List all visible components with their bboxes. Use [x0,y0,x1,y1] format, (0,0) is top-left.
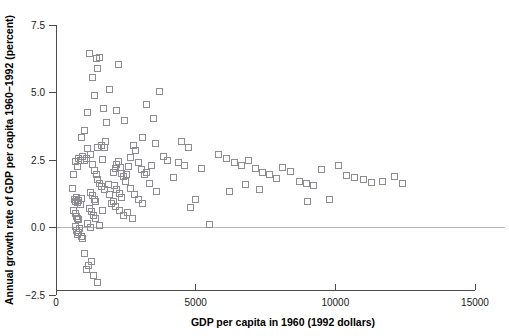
data-point [246,157,252,163]
data-point [128,154,134,160]
y-tick-label: 5.0 [31,87,45,98]
data-point [360,176,366,182]
data-point [94,280,100,286]
x-tick-label: 15000 [461,297,489,308]
data-point [78,134,84,140]
data-point [344,173,350,179]
data-point [82,127,88,133]
data-point [135,160,141,166]
data-point [126,164,132,170]
data-point [288,168,294,174]
data-point [100,208,106,214]
data-point [352,175,358,181]
data-point [193,196,199,202]
data-point [83,266,89,272]
data-point [95,65,101,71]
data-point [71,172,77,178]
data-point [122,178,128,184]
data-point [187,204,193,210]
data-point [113,107,119,113]
axis-ticks [49,25,335,295]
y-tick-label: −2.5 [25,290,45,301]
y-tick-label: 0.0 [31,222,45,233]
y-axis-label: Annual growth rate of GDP per capita 196… [3,15,15,305]
data-point [114,187,120,193]
data-point [90,75,96,81]
data-point [104,119,110,125]
x-tick-label: 0 [53,297,59,308]
data-point [156,88,162,94]
data-point [239,163,245,169]
data-point [335,162,341,168]
data-point [327,196,333,202]
data-point [121,118,127,124]
data-point [86,205,92,211]
data-point [93,216,99,222]
data-point [170,175,176,181]
data-point [140,134,146,140]
data-point-markers [70,50,406,286]
data-point [88,152,94,158]
x-axis-label: GDP per capita in 1960 (1992 dollars) [191,316,375,328]
data-point [92,92,98,98]
data-point [130,216,136,222]
data-point [147,181,153,187]
data-point [116,61,122,67]
y-tick-label: 7.5 [31,20,45,31]
data-point [304,199,310,205]
axes-frame [56,25,475,295]
data-point [257,186,263,192]
data-point [186,145,192,151]
x-tick-labels: 050001000015000 [53,297,489,308]
data-point [380,178,386,184]
x-tick-label: 10000 [321,297,349,308]
plot-canvas: 050001000015000 −2.50.02.55.07.5 GDP per… [0,0,509,336]
data-point [399,181,405,187]
data-point [310,183,316,189]
data-point [85,263,91,269]
data-point [93,172,99,178]
data-point [215,152,221,158]
data-point [232,159,238,165]
data-point [318,166,324,172]
x-tick-label: 5000 [185,297,208,308]
data-point [110,169,116,175]
data-point [127,185,133,191]
data-point [140,201,146,207]
y-tick-labels: −2.50.02.55.07.5 [25,20,45,301]
data-point [101,106,107,112]
data-point [369,179,375,185]
data-point [179,139,185,145]
data-point [131,192,137,198]
data-point [226,188,232,194]
data-point [154,188,160,194]
data-point [198,166,204,172]
data-point [267,172,273,178]
data-point [253,165,259,171]
data-point [103,138,109,144]
y-tick-label: 2.5 [31,155,45,166]
data-point [84,146,90,152]
data-point [81,250,87,256]
data-point [135,196,141,202]
data-point [92,168,98,174]
data-point [243,182,249,188]
data-point [303,181,309,187]
data-point [86,50,92,56]
data-point [116,158,122,164]
data-point [112,183,118,189]
data-point [296,178,302,184]
data-point [99,157,105,163]
data-point [91,273,97,279]
data-point [207,221,213,227]
data-point [95,176,101,182]
scatter-plot-figure: 050001000015000 −2.50.02.55.07.5 GDP per… [0,0,509,336]
data-point [70,185,76,191]
data-point [89,161,95,167]
data-point [279,165,285,171]
data-point [148,162,154,168]
data-point [144,102,150,108]
data-point [391,174,397,180]
data-point [274,175,280,181]
data-point [89,258,95,264]
